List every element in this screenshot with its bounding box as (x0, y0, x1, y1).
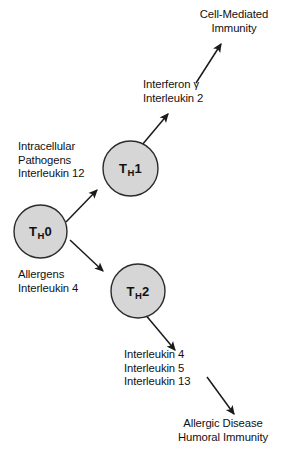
th1-inducers-line-3: Interleukin 12 (18, 167, 84, 181)
cell-th0-subscript: H (38, 230, 45, 241)
th2-inducers-label: Allergens Interleukin 4 (18, 268, 78, 295)
th1-cytokines-line-1: Interferon γ (143, 78, 203, 92)
cell-mediated-immunity-line-1: Cell-Mediated (184, 8, 284, 22)
allergic-humoral-line-1: Allergic Disease (162, 417, 284, 431)
allergic-disease-humoral-immunity-label: Allergic Disease Humoral Immunity (162, 417, 284, 444)
arrow-th2-to-cytokines (144, 313, 175, 350)
allergic-humoral-line-2: Humoral Immunity (162, 431, 284, 445)
cell-mediated-immunity-line-2: Immunity (184, 22, 284, 36)
cell-th2-number: 2 (142, 284, 149, 299)
th2-inducers-line-2: Interleukin 4 (18, 282, 78, 296)
cell-th2-letter: T (127, 284, 135, 299)
th2-cytokines-line-2: Interleukin 5 (124, 362, 190, 376)
th1-cytokines-label: Interferon γ Interleukin 2 (143, 78, 203, 105)
arrow-th0-to-th2 (70, 240, 103, 271)
arrow-cytokines-to-allergic-disease (207, 377, 234, 414)
cell-th2-subscript: H (135, 290, 142, 301)
cell-th2: T H 2 (111, 264, 165, 318)
th2-cytokines-line-3: Interleukin 13 (124, 375, 190, 389)
th1-inducers-label: Intracellular Pathogens Interleukin 12 (18, 140, 84, 181)
th-cell-differentiation-diagram: T H 0 T H 1 T H 2 Cell-Mediated Immunity… (0, 0, 290, 459)
arrow-th0-to-th1 (66, 190, 97, 222)
th1-inducers-line-2: Pathogens (18, 154, 84, 168)
cell-th0-number: 0 (45, 224, 52, 239)
cell-th1: T H 1 (103, 141, 158, 196)
th1-cytokines-line-2: Interleukin 2 (143, 92, 203, 106)
cell-mediated-immunity-label: Cell-Mediated Immunity (184, 8, 284, 35)
th2-cytokines-label: Interleukin 4 Interleukin 5 Interleukin … (124, 348, 190, 389)
cell-th1-subscript: H (128, 167, 135, 178)
cell-th0-letter: T (29, 224, 37, 239)
arrow-th1-to-cytokines (142, 114, 168, 145)
cell-th1-letter: T (119, 161, 127, 176)
th2-inducers-line-1: Allergens (18, 268, 78, 282)
th1-inducers-line-1: Intracellular (18, 140, 84, 154)
cell-th0: T H 0 (14, 205, 67, 258)
diagram-canvas: T H 0 T H 1 T H 2 (0, 0, 290, 459)
th2-cytokines-line-1: Interleukin 4 (124, 348, 190, 362)
cell-th1-number: 1 (135, 161, 142, 176)
